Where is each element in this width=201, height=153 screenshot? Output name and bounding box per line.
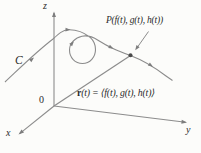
z-axis-label: z: [43, 1, 47, 11]
space-curve-figure: z C 0 x y P(f(t), g(t), h(t)) r(t) = ⟨f(…: [0, 0, 201, 153]
y-axis-label: y: [186, 125, 190, 135]
z-axis-arrowhead: [52, 12, 56, 18]
point-p-dot: [129, 53, 133, 57]
vector-equation-label: r(t) = ⟨f(t), g(t), h(t)⟩: [77, 88, 155, 98]
x-axis-label: x: [6, 128, 10, 138]
vector-equation-rest: (t) = ⟨f(t), g(t), h(t)⟩: [81, 87, 155, 98]
position-vector-line: [54, 56, 131, 107]
curve-label: C: [15, 55, 23, 67]
diagram-canvas: [0, 0, 201, 153]
point-p-label: P(f(t), g(t), h(t)): [106, 16, 163, 26]
y-axis-line: [54, 106, 186, 122]
curve-midright-arrowhead: [108, 45, 114, 51]
origin-label: 0: [39, 95, 44, 105]
point-label-leader-line: [137, 32, 149, 49]
x-axis-line: [20, 106, 54, 133]
curve-crest-arrowhead: [65, 28, 70, 32]
curve-c-path: [5, 30, 173, 82]
